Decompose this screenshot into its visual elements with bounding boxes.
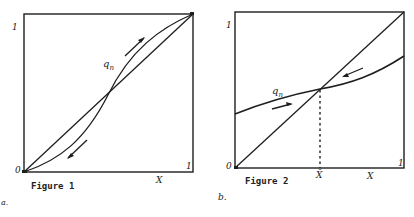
figure-1-x-max-label: 1 xyxy=(186,162,192,171)
arrow-left-icon xyxy=(342,68,363,77)
qn-subscript: n xyxy=(109,64,114,72)
figure-2-x-axis-label: X xyxy=(367,172,373,181)
figure-2-caption: Figure 2 xyxy=(245,177,288,186)
figure-2-plot xyxy=(234,12,404,169)
figure-2-fixed-point-label: X̄ xyxy=(316,171,322,180)
figure-2-origin-label: 0 xyxy=(226,162,232,171)
figure-1-caption: Figure 1 xyxy=(31,182,74,191)
figure-2-x-max-label: 1 xyxy=(398,159,404,168)
figure-1-panel-label: a. xyxy=(1,199,8,207)
figure-1-plot xyxy=(22,12,194,173)
arrow-down-left-icon xyxy=(67,140,87,159)
arrow-right-icon xyxy=(272,102,293,109)
figure-2-y-max-label: 1 xyxy=(226,21,232,30)
figure-1-origin-label: 0 xyxy=(15,166,21,175)
figure-1-qn-label: qn xyxy=(103,59,114,72)
figure-2-qn-label: qn xyxy=(272,86,283,99)
qn-subscript: n xyxy=(278,91,283,99)
figure-2-panel-label: b. xyxy=(218,193,227,202)
figure-1-y-max-label: 1 xyxy=(12,23,18,32)
figure-2-qn-curve xyxy=(235,56,404,114)
figure-1-x-axis-label: X xyxy=(156,176,162,185)
